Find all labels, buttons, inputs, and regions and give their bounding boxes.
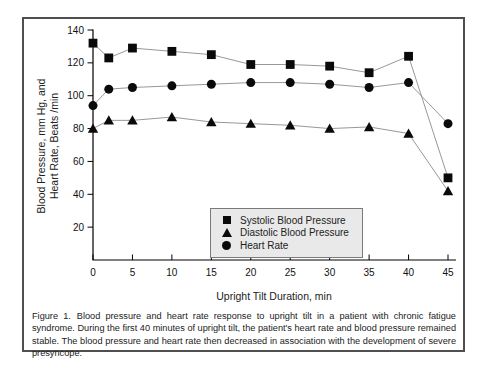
marker-systolic-blood-pressure <box>365 68 374 77</box>
legend-label: Systolic Blood Pressure <box>240 215 346 226</box>
x-tick-label: 40 <box>403 267 415 278</box>
x-tick-label: 10 <box>166 267 178 278</box>
y-axis-title-line1: Blood Pressure, mm Hg, and <box>35 16 48 276</box>
marker-systolic-blood-pressure <box>325 62 334 71</box>
legend-item-diastolic: Diastolic Blood Pressure <box>220 227 356 240</box>
marker-heart-rate <box>89 101 98 110</box>
y-tick-label: 140 <box>67 25 84 36</box>
marker-heart-rate <box>286 78 295 87</box>
x-tick-label: 5 <box>130 267 136 278</box>
marker-diastolic-blood-pressure <box>167 112 177 121</box>
circle-marker-icon <box>220 241 233 250</box>
marker-heart-rate <box>444 119 453 128</box>
legend-item-heart-rate: Heart Rate <box>220 239 356 252</box>
marker-heart-rate <box>325 80 334 89</box>
figure-caption-text: Blood pressure and heart rate response t… <box>32 311 456 358</box>
x-tick-label: 35 <box>364 267 376 278</box>
marker-heart-rate <box>128 83 137 92</box>
y-tick-label: 120 <box>67 57 84 68</box>
y-tick-label: 40 <box>73 189 85 200</box>
y-tick-label: 80 <box>73 123 85 134</box>
chart: 20406080100120140051015202530354045 Bloo… <box>24 19 463 309</box>
series-line-heart-rate <box>93 83 448 124</box>
marker-heart-rate <box>365 83 374 92</box>
marker-heart-rate <box>104 85 113 94</box>
marker-systolic-blood-pressure <box>286 60 295 69</box>
marker-systolic-blood-pressure <box>207 50 216 59</box>
figure-1-panel: 20406080100120140051015202530354045 Bloo… <box>22 17 465 352</box>
y-axis-title-line2: Heart Rate, Beats /min <box>48 16 61 276</box>
marker-heart-rate <box>404 78 413 87</box>
marker-systolic-blood-pressure <box>444 173 453 182</box>
marker-systolic-blood-pressure <box>246 60 255 69</box>
marker-systolic-blood-pressure <box>167 47 176 56</box>
chart-legend: Systolic Blood Pressure Diastolic Blood … <box>210 208 363 258</box>
x-tick-label: 15 <box>206 267 218 278</box>
marker-systolic-blood-pressure <box>104 54 113 63</box>
x-tick-label: 45 <box>442 267 454 278</box>
x-tick-label: 0 <box>90 267 96 278</box>
marker-heart-rate <box>246 78 255 87</box>
figure-page: 20406080100120140051015202530354045 Bloo… <box>0 0 487 366</box>
y-axis-title: Blood Pressure, mm Hg, and Heart Rate, B… <box>35 16 61 276</box>
x-axis-title: Upright Tilt Duration, min <box>154 290 394 302</box>
y-tick-label: 60 <box>73 156 85 167</box>
x-tick-label: 20 <box>245 267 257 278</box>
x-tick-label: 25 <box>285 267 297 278</box>
square-marker-icon <box>220 216 233 224</box>
x-tick-label: 30 <box>324 267 336 278</box>
figure-caption-label: Figure 1. <box>32 311 71 321</box>
legend-label: Diastolic Blood Pressure <box>240 227 349 238</box>
marker-heart-rate <box>167 81 176 90</box>
marker-systolic-blood-pressure <box>404 52 413 61</box>
marker-diastolic-blood-pressure <box>443 186 453 195</box>
marker-systolic-blood-pressure <box>128 44 137 53</box>
figure-caption: Figure 1.Blood pressure and heart rate r… <box>32 310 456 360</box>
legend-label: Heart Rate <box>240 240 288 251</box>
y-tick-label: 100 <box>67 90 84 101</box>
chart-plot: 20406080100120140051015202530354045 <box>24 19 463 309</box>
legend-item-systolic: Systolic Blood Pressure <box>220 214 356 227</box>
marker-systolic-blood-pressure <box>89 39 98 48</box>
triangle-marker-icon <box>220 228 233 237</box>
marker-heart-rate <box>207 80 216 89</box>
series-line-systolic-blood-pressure <box>93 43 448 178</box>
marker-diastolic-blood-pressure <box>364 122 374 131</box>
y-tick-label: 20 <box>73 222 85 233</box>
series-line-diastolic-blood-pressure <box>93 117 448 191</box>
